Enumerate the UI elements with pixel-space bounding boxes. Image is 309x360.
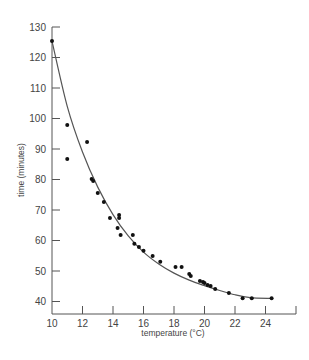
data-point bbox=[137, 245, 141, 249]
y-tick-label: 60 bbox=[35, 235, 47, 246]
x-tick-label: 12 bbox=[77, 318, 89, 329]
fitted-curve bbox=[52, 41, 272, 298]
data-point bbox=[209, 284, 213, 288]
y-tick-label: 120 bbox=[29, 52, 46, 63]
y-tick-label: 50 bbox=[35, 266, 47, 277]
data-point bbox=[85, 140, 89, 144]
data-point bbox=[91, 179, 95, 183]
data-point bbox=[65, 157, 69, 161]
data-point bbox=[151, 254, 155, 258]
data-point bbox=[96, 191, 100, 195]
data-point bbox=[108, 216, 112, 220]
data-point bbox=[65, 123, 69, 127]
data-point bbox=[213, 287, 217, 291]
data-point bbox=[174, 265, 178, 269]
data-point bbox=[132, 242, 136, 246]
y-tick-label: 70 bbox=[35, 205, 47, 216]
y-tick-label: 110 bbox=[30, 83, 46, 94]
y-tick-label: 130 bbox=[29, 22, 46, 33]
x-tick-label: 24 bbox=[260, 318, 272, 329]
data-point bbox=[250, 296, 254, 300]
data-point bbox=[241, 296, 245, 300]
data-point bbox=[158, 260, 162, 264]
y-tick-label: 40 bbox=[35, 296, 47, 307]
data-points bbox=[50, 39, 274, 300]
y-ticks: 405060708090100110120130 bbox=[29, 22, 60, 308]
x-axis-title: temperature (°C) bbox=[141, 328, 205, 338]
axes bbox=[52, 27, 296, 314]
x-tick-label: 22 bbox=[229, 318, 241, 329]
y-axis-title: time (minutes) bbox=[16, 143, 26, 197]
data-point bbox=[116, 226, 120, 230]
scatter-chart: 405060708090100110120130 101214161820222… bbox=[0, 0, 309, 360]
data-point bbox=[131, 233, 135, 237]
data-point bbox=[189, 274, 193, 278]
data-point bbox=[102, 200, 106, 204]
data-point bbox=[119, 233, 123, 237]
x-tick-label: 14 bbox=[107, 318, 119, 329]
data-point bbox=[50, 39, 54, 43]
y-tick-label: 90 bbox=[35, 144, 47, 155]
data-point bbox=[180, 265, 184, 269]
data-point bbox=[142, 249, 146, 253]
data-point bbox=[270, 296, 274, 300]
x-tick-label: 10 bbox=[46, 318, 58, 329]
y-tick-label: 100 bbox=[29, 113, 46, 124]
data-point bbox=[117, 216, 121, 220]
y-tick-label: 80 bbox=[35, 174, 47, 185]
data-point bbox=[227, 291, 231, 295]
x-ticks: 1012141618202224 bbox=[46, 306, 271, 329]
